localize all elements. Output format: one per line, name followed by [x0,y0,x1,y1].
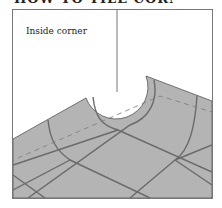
inside-corner-label: Inside corner [26,26,87,36]
